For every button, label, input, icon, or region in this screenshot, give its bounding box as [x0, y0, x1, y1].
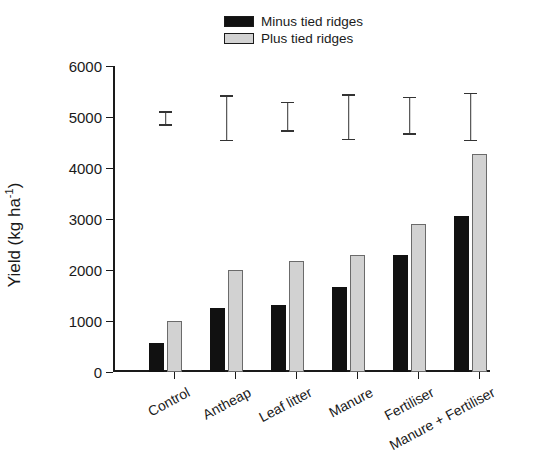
y-tick-mark: [106, 321, 113, 322]
yield-bar-chart-figure: Minus tied ridges Plus tied ridges Yield…: [0, 0, 546, 470]
bar-plus-tied-ridges: [167, 321, 182, 372]
error-bar-stem: [470, 93, 472, 142]
y-tick-label: 5000: [69, 109, 102, 126]
error-bar-0: [159, 111, 172, 126]
y-tick-label: 2000: [69, 262, 102, 279]
bar-minus-tied-ridges: [393, 255, 408, 372]
legend-item-minus-tied-ridges: Minus tied ridges: [224, 14, 363, 29]
x-tick-5: [479, 372, 480, 379]
bar-group-fertiliser: [393, 224, 426, 372]
chart-legend: Minus tied ridges Plus tied ridges: [224, 14, 363, 46]
y-tick-mark: [106, 168, 113, 169]
legend-label-minus-tied-ridges: Minus tied ridges: [261, 15, 363, 29]
bar-plus-tied-ridges: [289, 261, 304, 372]
y-tick-mark: [106, 66, 113, 67]
x-tick-2: [296, 372, 297, 379]
x-tick-0: [174, 372, 175, 379]
bar-plus-tied-ridges: [350, 255, 365, 372]
error-bar-stem: [409, 97, 411, 135]
y-tick-label: 3000: [69, 211, 102, 228]
error-bar-cap-top: [281, 102, 294, 104]
error-bar-cap-bottom: [342, 139, 355, 141]
bar-group-control: [149, 321, 182, 372]
y-tick-mark: [106, 219, 113, 220]
error-bar-3: [342, 94, 355, 140]
bar-minus-tied-ridges: [332, 287, 347, 372]
legend-swatch-minus-tied-ridges: [224, 16, 254, 27]
legend-label-plus-tied-ridges: Plus tied ridges: [261, 32, 353, 46]
error-bar-stem: [226, 95, 228, 141]
error-bar-2: [281, 102, 294, 133]
x-tick-4: [418, 372, 419, 379]
error-bar-4: [403, 97, 416, 135]
y-axis-title-exponent: -1: [3, 188, 15, 198]
error-bar-cap-top: [342, 94, 355, 96]
bar-group-antheap: [210, 270, 243, 372]
x-label-antheap: Antheap: [200, 384, 254, 423]
error-bar-stem: [287, 102, 289, 133]
bar-minus-tied-ridges: [271, 305, 286, 372]
error-bar-cap-bottom: [464, 140, 477, 142]
x-label-control: Control: [145, 384, 192, 419]
bar-minus-tied-ridges: [210, 308, 225, 372]
x-label-manure-fertiliser: Manure + Fertiliser: [387, 384, 498, 453]
error-bar-cap-bottom: [159, 124, 172, 126]
legend-item-plus-tied-ridges: Plus tied ridges: [224, 31, 363, 46]
error-bar-cap-top: [403, 97, 416, 99]
x-tick-1: [235, 372, 236, 379]
y-tick-mark: [106, 270, 113, 271]
x-label-leaf-litter: Leaf litter: [256, 384, 314, 425]
bar-plus-tied-ridges: [411, 224, 426, 372]
bar-plus-tied-ridges: [228, 270, 243, 372]
y-axis-title: Yield (kg ha-1): [3, 183, 25, 288]
bar-group-leaf-litter: [271, 261, 304, 372]
x-tick-3: [357, 372, 358, 379]
error-bar-cap-top: [220, 95, 233, 97]
y-tick-label: 0: [94, 364, 102, 381]
y-axis-line: [113, 66, 115, 372]
y-axis-title-prefix: Yield (kg ha: [5, 198, 24, 287]
y-tick-mark: [106, 117, 113, 118]
bar-group-manure: [332, 255, 365, 372]
legend-swatch-plus-tied-ridges: [224, 33, 254, 44]
error-bar-cap-top: [464, 93, 477, 95]
bar-minus-tied-ridges: [149, 343, 164, 372]
bar-minus-tied-ridges: [454, 216, 469, 372]
y-tick-label: 4000: [69, 160, 102, 177]
bar-group-manure-fertiliser: [454, 154, 487, 372]
error-bar-cap-bottom: [281, 130, 294, 132]
error-bar-cap-top: [159, 111, 172, 113]
x-label-manure: Manure: [326, 384, 375, 420]
y-tick-label: 6000: [69, 58, 102, 75]
error-bar-cap-bottom: [403, 133, 416, 135]
error-bar-cap-bottom: [220, 140, 233, 142]
y-tick-mark: [106, 372, 113, 373]
y-axis-title-suffix: ): [5, 183, 24, 189]
bar-plus-tied-ridges: [472, 154, 487, 372]
error-bar-stem: [348, 94, 350, 140]
y-tick-label: 1000: [69, 313, 102, 330]
error-bar-5: [464, 93, 477, 142]
plot-area: 0100020003000400050006000: [113, 66, 490, 372]
error-bar-1: [220, 95, 233, 141]
